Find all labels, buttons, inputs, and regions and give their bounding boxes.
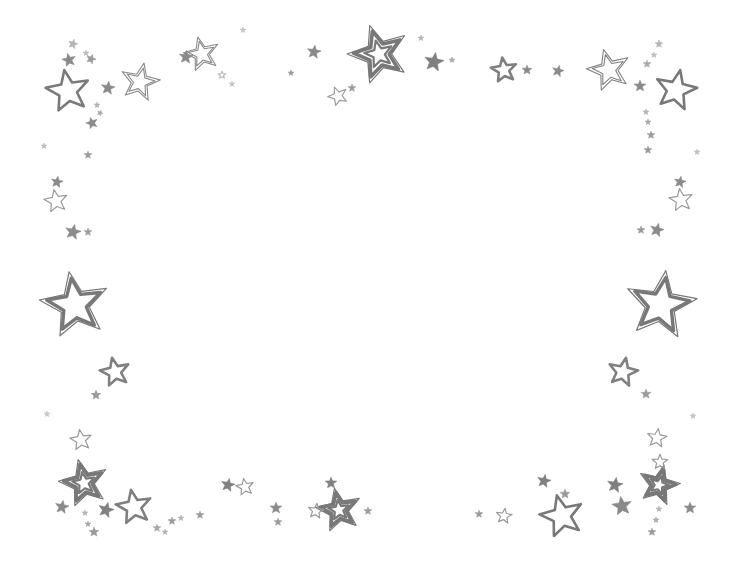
star-icon [102,81,115,94]
star-filled [538,474,551,487]
star-filled [102,81,115,94]
star-filled [656,506,662,511]
star-filled [168,517,176,524]
star-icon [116,490,150,523]
star-outline-thick [657,70,697,109]
star-icon [66,224,81,239]
star-filled [690,413,696,418]
star-filled [449,57,455,62]
star-icon [288,70,294,75]
star-icon [418,35,424,40]
star-icon [648,428,667,446]
star-outline-thin [328,87,347,105]
star-outline-thin [652,454,668,468]
star-icon [153,524,161,531]
star-icon [44,190,67,212]
star-filled [475,510,483,517]
star-icon [229,81,235,86]
star-icon [669,189,692,211]
star-outline-thick [46,70,88,110]
star-filled [84,151,92,158]
star-icon [560,489,570,498]
star-outline-band [635,278,690,331]
star-filled [325,477,337,488]
star-filled [308,45,321,58]
star-outline-band [645,469,676,500]
star-filled [644,146,652,153]
star-icon [178,515,184,520]
star-icon [522,65,532,74]
star-icon [70,429,91,449]
star-icon [162,529,168,534]
star-filled [84,228,92,235]
star-filled [62,53,75,66]
star-icon [56,500,69,513]
star-icon [84,151,92,158]
star-filled [653,517,659,522]
star-filled [87,54,96,63]
star-icon [97,110,103,116]
star-border-frame [0,0,739,571]
star-icon [648,528,656,535]
star-icon [87,54,96,63]
star-filled [637,226,645,233]
star-filled [648,528,656,535]
star-filled [418,35,424,40]
star-icon [240,27,246,32]
star-outline-outer [184,37,218,70]
star-icon [41,143,47,148]
star-icon [44,411,50,416]
star-filled [647,131,655,138]
star-filled [240,27,246,32]
star-filled [641,389,651,398]
star-icon [58,460,105,506]
star-icon [364,507,372,514]
star-outline-thick [116,490,150,523]
star-filled [553,65,564,76]
star-outline-thin [218,71,226,78]
star-filled [425,53,444,71]
star-icon [328,87,347,105]
star-filled [91,390,101,399]
star-icon [184,37,218,70]
star-filled [153,524,161,531]
star-icon [218,71,226,78]
star-filled [651,223,664,236]
star-icon [91,390,101,399]
star-icon [168,517,176,524]
star-icon [641,389,651,398]
star-icon [94,102,100,107]
star-icon [651,52,657,57]
star-icon [83,50,89,55]
star-filled [643,109,649,114]
star-icon [694,149,700,154]
blank-content-area [120,130,620,440]
star-filled [85,521,91,526]
star-filled [222,478,235,491]
star-icon [46,70,88,110]
star-icon [425,53,444,71]
star-filled [196,511,204,518]
star-icon [647,131,655,138]
star-filled [94,102,100,107]
star-icon [690,413,696,418]
star-filled [82,510,88,515]
star-filled [66,224,81,239]
star-icon [651,223,664,236]
star-filled [274,518,282,525]
star-icon [122,63,160,100]
star-filled [608,477,623,492]
star-outline-thin [497,508,512,523]
star-icon [497,508,512,523]
star-icon [653,517,659,522]
star-icon [553,65,564,76]
star-icon [325,477,337,488]
star-filled [89,527,99,536]
star-filled [41,143,47,148]
star-filled [348,84,356,91]
star-icon [86,117,97,128]
star-filled [288,70,294,75]
star-icon [89,527,99,536]
star-icon [628,271,697,337]
star-icon [684,502,696,513]
